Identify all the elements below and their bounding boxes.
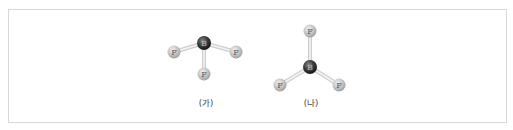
caption-na: (나) [304, 98, 319, 108]
atom-label: F [201, 70, 207, 79]
atom-b: B [197, 36, 211, 50]
atom-label: F [307, 27, 313, 36]
atom-f: F [333, 79, 346, 92]
atom-f: F [168, 46, 181, 59]
atom-f: F [274, 79, 287, 92]
caption-ga: (가) [199, 98, 214, 108]
atom-label: F [233, 48, 239, 57]
atom-label: F [336, 81, 342, 90]
atom-label: F [277, 81, 283, 90]
atom-b: B [303, 60, 317, 74]
molecule-ga: F F F B (가) [168, 36, 243, 108]
atom-f: F [304, 25, 317, 38]
atom-label: B [201, 39, 207, 48]
atom-label: B [307, 63, 313, 72]
molecule-diagram: F F F B (가) F F [0, 0, 513, 130]
atom-label: F [171, 48, 177, 57]
bonds-na [280, 31, 339, 85]
atom-f: F [230, 46, 243, 59]
molecule-na: F F F B (나) [274, 25, 346, 109]
atom-f: F [198, 68, 211, 81]
